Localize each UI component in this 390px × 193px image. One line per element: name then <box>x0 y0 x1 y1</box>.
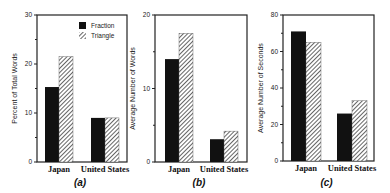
y-tick-label: 20 <box>143 11 151 18</box>
bar-fraction <box>91 118 105 162</box>
x-category-label: Japan <box>48 164 70 174</box>
legend-label: Fraction <box>91 22 115 29</box>
bar-triangle <box>306 42 321 161</box>
y-tick-label: 40 <box>271 84 279 91</box>
legend-label: Triangle <box>91 32 115 40</box>
y-tick-label: 20 <box>271 121 279 128</box>
panel-label: (c) <box>320 177 333 188</box>
bar-triangle <box>179 33 193 162</box>
legend-swatch-fraction <box>79 22 86 29</box>
y-tick-label: 30 <box>25 11 33 18</box>
legend-swatch-triangle <box>79 32 86 39</box>
bar-triangle <box>105 118 119 162</box>
y-axis-title: Average Number of Words <box>129 47 137 130</box>
figure-three-panel-bar-charts: 0102030Percent of Total WordsJapanUnited… <box>0 0 390 193</box>
chart-legend: FractionTriangle <box>79 22 115 40</box>
bar-fraction <box>337 114 352 161</box>
y-axis-title: Percent of Total Words <box>11 53 18 124</box>
y-axis-title: Average Number of Seconds <box>257 43 265 133</box>
x-category-label: United States <box>81 164 130 174</box>
panel-label: (b) <box>193 177 206 188</box>
panel-label: (a) <box>74 177 87 188</box>
y-tick-label: 0 <box>28 158 32 165</box>
chart-panel-c: 020406080Average Number of SecondsJapanU… <box>257 11 377 188</box>
y-tick-label: 80 <box>271 11 279 18</box>
x-category-label: United States <box>328 163 377 173</box>
y-tick-label: 60 <box>271 48 279 55</box>
y-tick-label: 0 <box>274 157 278 164</box>
bar-triangle <box>352 101 367 161</box>
bar-triangle <box>59 57 73 162</box>
bar-fraction <box>210 139 224 162</box>
bar-fraction <box>45 87 59 162</box>
bar-fraction <box>165 59 179 162</box>
x-category-label: Japan <box>295 163 317 173</box>
bar-fraction <box>291 31 306 161</box>
bar-triangle <box>224 131 238 162</box>
x-category-label: United States <box>200 164 249 174</box>
y-tick-label: 20 <box>25 60 33 67</box>
y-tick-label: 10 <box>143 85 151 92</box>
y-tick-label: 0 <box>146 158 150 165</box>
x-category-label: Japan <box>168 164 190 174</box>
y-tick-label: 10 <box>25 109 33 116</box>
chart-panel-b: 01020Average Number of WordsJapanUnited … <box>129 11 249 188</box>
